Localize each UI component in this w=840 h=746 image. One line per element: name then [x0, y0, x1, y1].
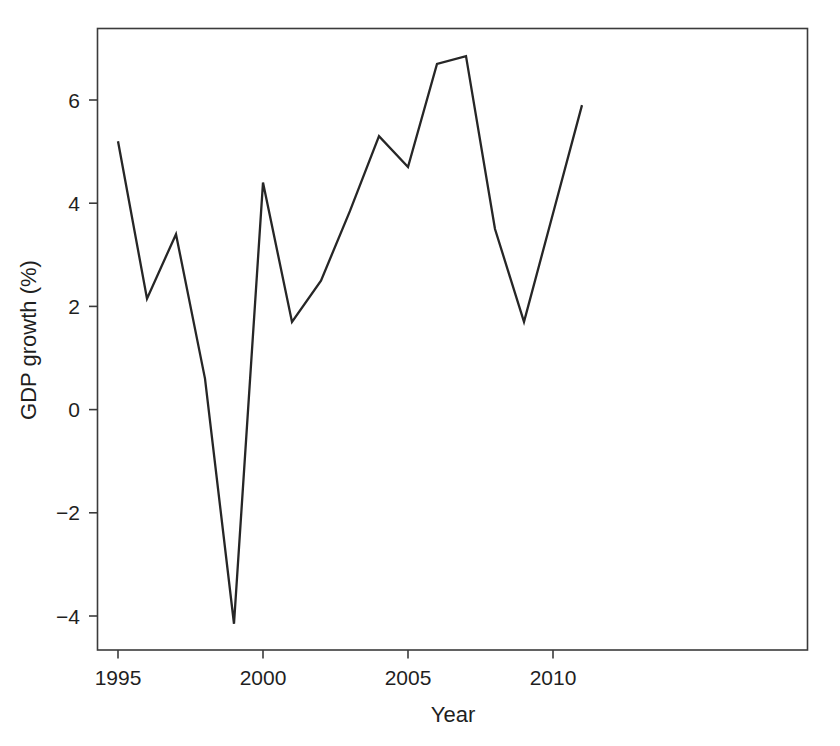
y-axis-tick-labels: 6 4 2 0 −2 −4 — [56, 89, 80, 628]
x-axis-title: Year — [431, 702, 475, 727]
y-tick-label-neg2: −2 — [56, 501, 80, 524]
gdp-growth-series-line — [118, 56, 582, 624]
y-tick-label-4: 4 — [68, 192, 80, 215]
figure-page: 6 4 2 0 −2 −4 1995 2000 2005 2010 — [0, 0, 840, 746]
y-tick-label-2: 2 — [68, 295, 80, 318]
y-axis-title: GDP growth (%) — [16, 260, 41, 420]
y-tick-label-6: 6 — [68, 89, 80, 112]
y-tick-label-neg4: −4 — [56, 605, 80, 628]
x-tick-label-2000: 2000 — [240, 666, 287, 689]
x-tick-label-2005: 2005 — [385, 666, 432, 689]
plot-frame — [98, 29, 808, 651]
x-tick-label-1995: 1995 — [95, 666, 142, 689]
x-tick-label-2010: 2010 — [530, 666, 577, 689]
gdp-growth-line-chart: 6 4 2 0 −2 −4 1995 2000 2005 2010 — [0, 0, 840, 746]
x-axis-ticks — [118, 650, 553, 659]
y-axis-ticks — [89, 100, 98, 616]
x-axis-tick-labels: 1995 2000 2005 2010 — [95, 666, 577, 689]
chart-canvas: 6 4 2 0 −2 −4 1995 2000 2005 2010 — [0, 0, 840, 746]
y-tick-label-0: 0 — [68, 398, 80, 421]
